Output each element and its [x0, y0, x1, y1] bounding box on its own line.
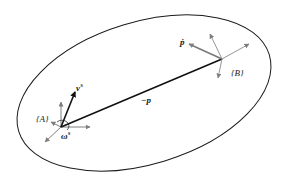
frame-a-label: {A}: [36, 115, 49, 124]
frame-b-label: {B}: [231, 69, 244, 78]
rigid-body-outline: [0, 0, 288, 182]
omega-s-base: ω: [61, 131, 68, 141]
neg-p-label: −p: [141, 96, 151, 105]
p-dot-label: ṗ: [180, 38, 185, 47]
p-dot-vector: [189, 44, 222, 59]
omega-s-label: ωs: [61, 130, 70, 141]
v-s-label: vs: [76, 82, 83, 93]
v-s-base: v: [76, 83, 80, 93]
twist-diagram: [0, 0, 288, 182]
neg-p-vector: [61, 59, 222, 127]
omega-s-sup: s: [68, 130, 70, 136]
v-s-sup: s: [81, 82, 83, 88]
